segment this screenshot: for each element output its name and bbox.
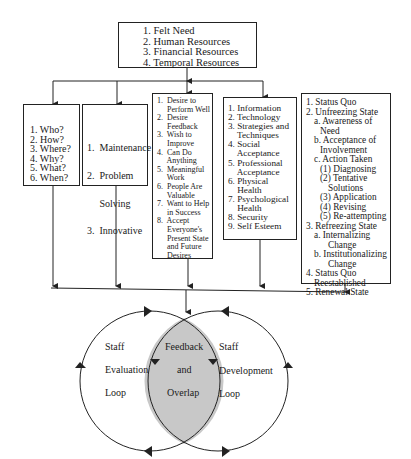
resources-box: 1. Felt Need 2. Human Resources 3. Finan… [118,22,257,68]
arrow-left-icon [221,306,229,317]
resource-item: 4. Temporal Resources [143,58,256,69]
overlap-label-3: Overlap [167,388,199,398]
motivation-item: Desires [157,252,212,261]
evaluation-loop-label-3: Loop [105,388,126,398]
questions-box: 1. Who? 2. How? 3. Where? 4. Why? 5. Wha… [23,104,80,186]
change-process-box: 1. Status Quo 2. Unfreezing State a. Awa… [301,93,391,284]
development-loop-label-1: Staff [219,342,238,352]
question-item: 6. When? [30,173,79,183]
overlap-label-1: Feedback [165,342,203,352]
arrow-right-icon [222,446,230,457]
overlap-region [145,318,224,444]
type-item: 3. Innovative [87,226,147,235]
need-item: 9. Self Esteem [228,222,296,231]
needs-box: 1. Information 2. Technology 3. Strategi… [223,97,297,240]
evaluation-loop-label-1: Staff [105,342,124,352]
resource-item: 1. Felt Need [143,26,256,37]
evaluation-loop-label-2: Evaluation [105,365,148,375]
development-loop-label-3: Loop [219,389,240,399]
type-item: 1. Maintenance [87,143,147,152]
type-item: Solving [87,199,147,208]
arrow-left-icon [144,446,152,457]
development-loop-label-2: Development [219,366,273,376]
overlap-label-2: and [177,365,191,375]
arrow-up-icon [75,362,86,368]
arrow-right-icon [144,306,152,317]
change-item: 5. Renewal State [306,288,390,298]
types-box: 1. Maintenance 2. Problem Solving 3. Inn… [82,104,148,186]
type-item: 2. Problem [87,171,147,180]
resource-item: 3. Financial Resources [143,47,256,58]
change-item: a. Awareness of [306,117,390,127]
arrow-up-icon [283,362,293,368]
motivation-box: 1. Desire to Perform Well 2. Desire Feed… [152,93,213,259]
